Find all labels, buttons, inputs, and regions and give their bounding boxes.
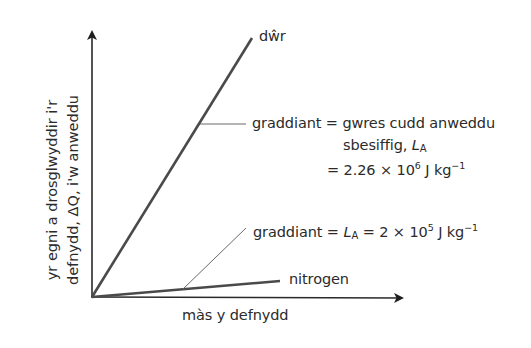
y-axis-label-line1: yr egni a drosglwyddir i'r xyxy=(42,60,63,320)
x-axis xyxy=(91,297,402,298)
water-gradient-line3: = 2.26 × 106 J kg−1 xyxy=(327,157,465,179)
latent-heat-subscript: A xyxy=(420,143,427,154)
water-gradient-unit-exponent: −1 xyxy=(451,160,465,171)
nitrogen-line-label: nitrogen xyxy=(289,270,349,288)
latent-heat-symbol: L xyxy=(412,137,420,153)
nitrogen-line xyxy=(92,281,280,297)
water-gradient-line1: graddiant = gwres cudd anweddu xyxy=(252,114,495,132)
water-line-label: dŵr xyxy=(259,27,286,45)
water-gradient-value: = 2.26 × 10 xyxy=(327,162,415,178)
nitrogen-gradient-unit: J kg xyxy=(434,224,465,240)
y-axis-label-line2: defnydd, ΔQ, i'w anweddu xyxy=(63,60,84,320)
water-line xyxy=(92,38,252,297)
y-axis-label: yr egni a drosglwyddir i'r defnydd, ΔQ, … xyxy=(42,60,84,320)
nitrogen-gradient-value: = 2 × 10 xyxy=(358,224,428,240)
nitrogen-gradient-prefix: graddiant = xyxy=(253,224,343,240)
x-axis-label: màs y defnydd xyxy=(182,306,288,324)
nitrogen-gradient-leader xyxy=(183,228,246,289)
water-gradient-unit: J kg xyxy=(421,162,452,178)
water-gradient-line2: sbesiffig, LA xyxy=(343,136,427,158)
water-gradient-line2-text: sbesiffig, xyxy=(343,137,412,153)
nitrogen-gradient-unit-exponent: −1 xyxy=(464,222,478,233)
nitrogen-gradient-annotation: graddiant = LA = 2 × 105 J kg−1 xyxy=(253,219,478,245)
